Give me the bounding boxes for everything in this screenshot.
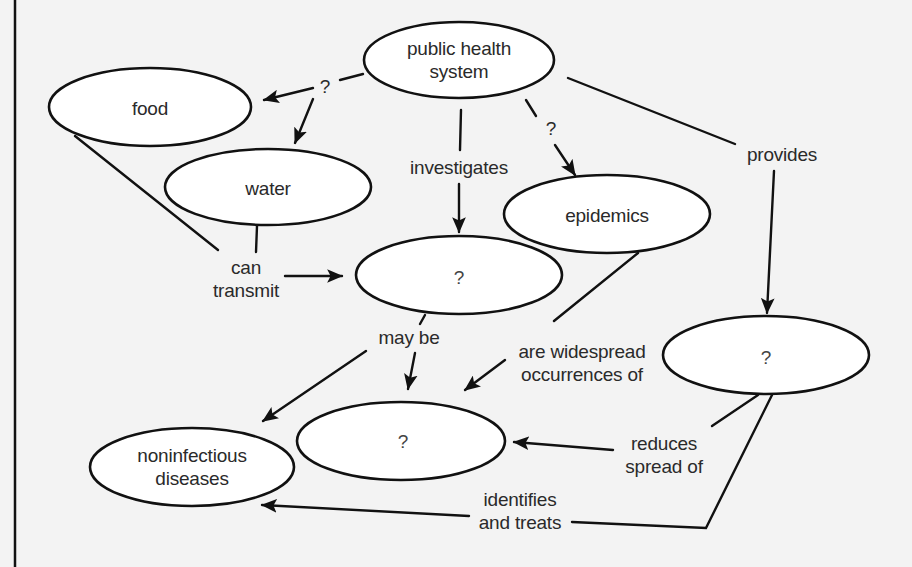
edge-center-to-may-be bbox=[420, 315, 425, 324]
link-label-reduces-spread: reduces spread of bbox=[625, 432, 702, 478]
link-label-are-widespread: are widespread occurrences of bbox=[518, 340, 645, 386]
node-food[interactable]: food bbox=[132, 97, 168, 120]
edge-provides-to-right bbox=[767, 171, 774, 313]
link-label-q-epidemics: ? bbox=[546, 117, 556, 140]
concept-nodes bbox=[49, 22, 869, 506]
link-label-q-food-water: ? bbox=[320, 75, 330, 98]
link-label-provides: provides bbox=[747, 143, 817, 166]
edge-water-to-can-transmit bbox=[256, 226, 257, 252]
concept-map: public health system food water epidemic… bbox=[0, 0, 912, 567]
edge-reduces-to-lower bbox=[514, 442, 613, 450]
node-unknown-right[interactable]: ? bbox=[761, 346, 771, 369]
edge-may-be-to-lower bbox=[408, 353, 415, 389]
link-label-may-be: may be bbox=[378, 326, 439, 349]
edge-epidemics-to-widespread bbox=[554, 253, 638, 321]
node-water[interactable]: water bbox=[245, 177, 290, 200]
edge-phs-to-q-epidemics bbox=[526, 100, 536, 116]
edge-phs-to-q bbox=[340, 74, 363, 80]
edge-q-to-epidemics bbox=[555, 145, 575, 175]
link-label-identifies-treats: identifies and treats bbox=[479, 488, 562, 534]
edge-phs-to-investigates bbox=[460, 110, 461, 150]
edge-q-to-food bbox=[264, 88, 313, 100]
edge-right-to-reduces bbox=[712, 395, 758, 426]
node-unknown-center[interactable]: ? bbox=[454, 266, 464, 289]
node-noninfectious-diseases[interactable]: noninfectious diseases bbox=[137, 444, 246, 490]
link-label-can-transmit: can transmit bbox=[213, 256, 279, 302]
node-unknown-lower[interactable]: ? bbox=[398, 430, 408, 453]
edge-widespread-to-lower bbox=[465, 360, 505, 390]
edge-phs-to-provides bbox=[568, 78, 735, 144]
link-label-investigates: investigates bbox=[410, 156, 508, 179]
edge-identifies-to-noninfectious bbox=[262, 505, 469, 516]
node-epidemics[interactable]: epidemics bbox=[565, 204, 649, 227]
edge-q-to-water bbox=[295, 99, 313, 143]
node-public-health-system[interactable]: public health system bbox=[407, 37, 511, 83]
